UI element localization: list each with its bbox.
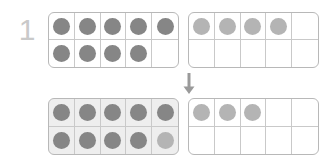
bottom-right-ten-frame xyxy=(188,98,319,155)
empty-cell-slot xyxy=(219,45,236,62)
ten-frame-cell xyxy=(49,40,75,67)
counter-dot-dark xyxy=(130,45,147,62)
ten-frame-cell xyxy=(215,40,241,67)
ten-frame-cell xyxy=(126,127,152,155)
ten-frame-cell xyxy=(101,127,127,155)
ten-frame-cell xyxy=(126,99,152,127)
ten-frame-cell xyxy=(101,13,127,40)
ten-frame-cell xyxy=(189,40,215,67)
top-right-ten-frame xyxy=(188,12,319,68)
ten-frame-cell xyxy=(266,13,292,40)
counter-dot-dark xyxy=(104,18,121,35)
top-left-ten-frame xyxy=(48,12,179,68)
counter-dot-dark xyxy=(79,18,96,35)
ten-frame-cell xyxy=(152,99,178,127)
ten-frame-cell xyxy=(152,40,178,67)
empty-cell-slot xyxy=(270,104,287,121)
ten-frame-cell xyxy=(75,99,101,127)
ten-frame-cell xyxy=(241,99,267,127)
ten-frame-cell xyxy=(215,127,241,155)
ten-frame-cell xyxy=(292,127,318,155)
empty-cell-slot xyxy=(297,104,314,121)
counter-dot-light xyxy=(193,18,210,35)
counter-dot-dark xyxy=(157,18,174,35)
ten-frame-cell xyxy=(189,13,215,40)
ten-frame-cell xyxy=(189,99,215,127)
empty-cell-slot xyxy=(244,132,261,149)
arrow-down-icon xyxy=(178,72,200,96)
ten-frame-cell xyxy=(126,13,152,40)
empty-cell-slot xyxy=(219,132,236,149)
empty-cell-slot xyxy=(193,132,210,149)
empty-cell-slot xyxy=(297,45,314,62)
ten-frame-cell xyxy=(75,127,101,155)
empty-cell-slot xyxy=(193,45,210,62)
ten-frame-cell xyxy=(241,40,267,67)
empty-cell-slot xyxy=(297,132,314,149)
counter-dot-dark xyxy=(130,18,147,35)
counter-dot-light xyxy=(244,104,261,121)
ten-frame-cell xyxy=(189,127,215,155)
bottom-left-ten-frame xyxy=(48,98,179,155)
ten-frame-cell xyxy=(126,40,152,67)
empty-cell-slot xyxy=(244,45,261,62)
ten-frame-cell xyxy=(49,127,75,155)
counter-dot-light xyxy=(157,132,174,149)
ten-frame-cell xyxy=(241,13,267,40)
worksheet-canvas: 1 xyxy=(0,0,330,157)
counter-dot-dark xyxy=(130,104,147,121)
ten-frame-cell xyxy=(266,127,292,155)
ten-frame-cell xyxy=(241,127,267,155)
counter-dot-light xyxy=(270,18,287,35)
ten-frame-cell xyxy=(75,13,101,40)
ten-frame-cell xyxy=(75,40,101,67)
ten-frame-cell xyxy=(49,99,75,127)
ten-frame-cell xyxy=(215,99,241,127)
empty-cell-slot xyxy=(157,45,174,62)
ten-frame-cell xyxy=(152,127,178,155)
empty-cell-slot xyxy=(297,18,314,35)
ten-frame-cell xyxy=(292,13,318,40)
ten-frame-cell xyxy=(152,13,178,40)
counter-dot-dark xyxy=(79,104,96,121)
question-number: 1 xyxy=(12,13,42,47)
ten-frame-cell xyxy=(101,99,127,127)
ten-frame-cell xyxy=(292,40,318,67)
ten-frame-cell xyxy=(49,13,75,40)
counter-dot-dark xyxy=(104,132,121,149)
counter-dot-dark xyxy=(79,132,96,149)
ten-frame-cell xyxy=(266,99,292,127)
counter-dot-dark xyxy=(130,132,147,149)
counter-dot-light xyxy=(193,104,210,121)
counter-dot-dark xyxy=(53,132,70,149)
counter-dot-dark xyxy=(157,104,174,121)
empty-cell-slot xyxy=(270,132,287,149)
empty-cell-slot xyxy=(270,45,287,62)
counter-dot-dark xyxy=(104,45,121,62)
ten-frame-cell xyxy=(266,40,292,67)
counter-dot-dark xyxy=(53,45,70,62)
counter-dot-light xyxy=(244,18,261,35)
counter-dot-dark xyxy=(53,104,70,121)
ten-frame-cell xyxy=(292,99,318,127)
counter-dot-light xyxy=(219,18,236,35)
counter-dot-dark xyxy=(79,45,96,62)
ten-frame-cell xyxy=(101,40,127,67)
counter-dot-dark xyxy=(104,104,121,121)
ten-frame-cell xyxy=(215,13,241,40)
counter-dot-dark xyxy=(53,18,70,35)
counter-dot-light xyxy=(219,104,236,121)
